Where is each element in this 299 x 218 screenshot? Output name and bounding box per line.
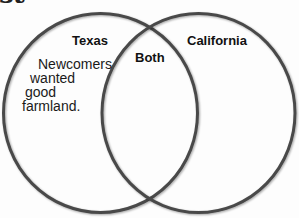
california-label: California — [187, 34, 247, 48]
texas-note-line-1: Newcomers — [38, 57, 112, 71]
texas-label: Texas — [72, 34, 108, 48]
texas-note-line-2: wanted — [30, 71, 75, 85]
both-label: Both — [135, 51, 165, 65]
texas-note-line-3: good — [25, 85, 56, 99]
venn-diagram-canvas: st Texas Newcomers wanted good farmland.… — [0, 0, 299, 218]
texas-note-line-4: farmland. — [22, 99, 80, 113]
